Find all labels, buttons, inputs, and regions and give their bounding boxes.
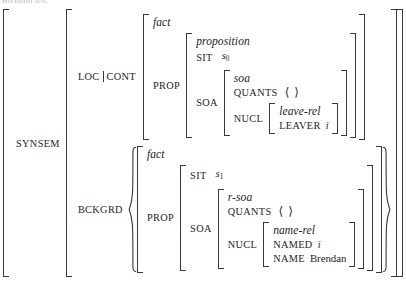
attribute-nucl-2: NUCL <box>228 238 263 251</box>
r-soa-matrix: r-soa QUANTS ⟨ ⟩ <box>218 189 365 269</box>
soa-rows: soa QUANTS ⟨ ⟩ NUCL <box>230 70 341 136</box>
fact-1-type-row: fact <box>153 16 356 29</box>
type-proposition: proposition <box>196 35 250 48</box>
fact-2-bracket-close <box>376 146 382 273</box>
proposition-matrix-2: SIT s1 SOA <box>180 165 373 271</box>
leave-rel-matrix: leave-rel LEAVER i <box>269 103 337 134</box>
leave-rel-type-row: leave-rel <box>279 105 328 118</box>
fact-1-rows: fact PROP proposition <box>149 14 359 140</box>
proposition-type-row: proposition <box>196 35 346 48</box>
soa-bracket-close <box>341 70 347 136</box>
fact-1-prop-row: PROP proposition SIT <box>153 33 356 138</box>
type-fact-1: fact <box>153 16 171 29</box>
value-quants-empty-list-1: ⟨ ⟩ <box>285 86 300 99</box>
attribute-leaver: LEAVER <box>279 119 320 132</box>
fact-matrix-2: fact PROP SIT <box>137 146 383 273</box>
synsem-feature-matrix: SYNSEM LOC CONT fact <box>3 9 403 277</box>
name-rel-matrix: name-rel NAMED i <box>263 222 355 267</box>
cropped-caption-text: Brendan left. <box>2 0 49 3</box>
name-rel-name-row: NAME Brendan <box>273 252 346 265</box>
proposition-2-soa-row: SOA r-soa <box>190 189 364 269</box>
branch-loc-cont: LOC CONT fact PROP <box>72 14 392 140</box>
r-soa-bracket-close <box>358 189 364 269</box>
r-soa-type-row: r-soa <box>228 191 356 204</box>
value-quants-empty-list-2: ⟨ ⟩ <box>279 205 294 218</box>
proposition-bracket-close <box>350 33 356 138</box>
value-s0: s0 <box>222 49 230 66</box>
attribute-synsem: SYNSEM <box>9 9 66 277</box>
attribute-named: NAMED <box>273 238 313 251</box>
synsem-branch-list: LOC CONT fact PROP <box>72 9 392 277</box>
attribute-name: NAME <box>273 252 305 265</box>
outer-bracket-close <box>397 9 403 277</box>
name-rel-bracket-close <box>349 222 355 267</box>
attribute-soa-2: SOA <box>190 222 218 235</box>
attribute-quants-1: QUANTS <box>234 86 278 99</box>
set-brace-close <box>382 146 391 273</box>
fact-1-bracket-close <box>359 14 365 140</box>
soa-quants-row: QUANTS ⟨ ⟩ <box>234 86 338 99</box>
name-rel-type-row: name-rel <box>273 224 346 237</box>
attribute-sit-1: SIT <box>190 169 207 182</box>
attribute-loc-cont: LOC CONT <box>72 70 143 83</box>
proposition-sit-row: SIT s0 <box>196 49 346 66</box>
type-name-rel: name-rel <box>273 224 315 237</box>
set-brace-open <box>128 146 137 273</box>
proposition-2-bracket-close <box>367 165 373 271</box>
value-leaver-index: i <box>326 119 329 132</box>
leave-rel-leaver-row: LEAVER i <box>279 119 328 132</box>
attribute-separator-pipe <box>103 71 104 82</box>
proposition-2-rows: SIT s1 SOA <box>186 165 367 271</box>
proposition-rows: proposition SIT s0 SOA <box>192 33 349 138</box>
attribute-nucl-1: NUCL <box>234 112 269 125</box>
name-rel-rows: name-rel NAMED i <box>269 222 349 267</box>
attribute-soa-1: SOA <box>196 96 224 109</box>
fact-matrix-1: fact PROP proposition <box>143 14 365 140</box>
name-rel-named-row: NAMED i <box>273 238 346 251</box>
attribute-prop-1: PROP <box>153 79 186 92</box>
attribute-prop-2: PROP <box>147 211 180 224</box>
type-leave-rel: leave-rel <box>279 105 320 118</box>
value-s1: s1 <box>216 167 224 184</box>
type-fact-2: fact <box>147 148 165 161</box>
attribute-loc: LOC <box>78 70 100 83</box>
leave-rel-bracket-close <box>332 103 338 134</box>
proposition-matrix: proposition SIT s0 SOA <box>186 33 355 138</box>
synsem-value-matrix: LOC CONT fact PROP <box>66 9 398 277</box>
attribute-bckgrd: BCKGRD <box>72 203 128 216</box>
r-soa-rows: r-soa QUANTS ⟨ ⟩ <box>224 189 359 269</box>
r-soa-nucl-row: NUCL name-re <box>228 222 356 267</box>
fact-2-rows: fact PROP SIT <box>143 146 377 273</box>
bckgrd-set: fact PROP SIT <box>128 146 392 273</box>
r-soa-quants-row: QUANTS ⟨ ⟩ <box>228 205 356 218</box>
proposition-soa-row: SOA soa <box>196 70 346 136</box>
fact-2-type-row: fact <box>147 148 374 161</box>
branch-bckgrd: BCKGRD fact <box>72 146 392 273</box>
synsem-value-bracket-close <box>391 9 397 277</box>
value-named-index: i <box>318 238 321 251</box>
value-name-brendan: Brendan <box>310 252 347 265</box>
soa-type-row: soa <box>234 72 338 85</box>
soa-matrix: soa QUANTS ⟨ ⟩ NUCL <box>224 70 347 136</box>
soa-nucl-row: NUCL leave-rel <box>234 103 338 134</box>
fact-2-prop-row: PROP SIT s1 <box>147 165 374 271</box>
type-soa: soa <box>234 72 250 85</box>
type-r-soa: r-soa <box>228 191 253 204</box>
leave-rel-rows: leave-rel LEAVER i <box>275 103 331 134</box>
proposition-2-sit-row: SIT s1 <box>190 167 364 184</box>
attribute-cont: CONT <box>107 70 136 83</box>
attribute-sit-0: SIT <box>196 51 213 64</box>
attribute-quants-2: QUANTS <box>228 205 272 218</box>
